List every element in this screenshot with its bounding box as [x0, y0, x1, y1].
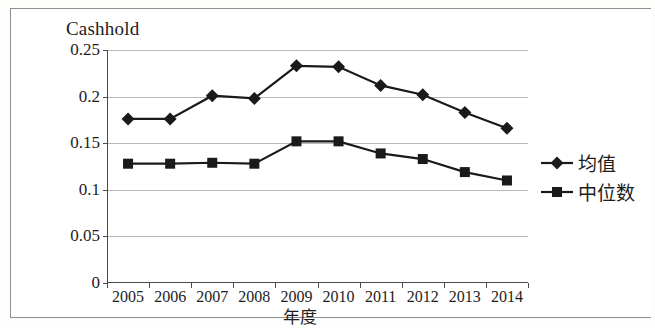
legend-marker-square-icon	[540, 185, 574, 199]
chart-legend: 均值中位数	[540, 148, 650, 206]
legend-label: 中位数	[578, 178, 635, 205]
y-axis-tick-label: 0.15	[38, 133, 100, 153]
y-axis-tick-labels: 00.050.10.150.20.25	[36, 50, 100, 283]
x-axis-title: 年度	[0, 303, 600, 328]
plot-area	[107, 50, 528, 283]
y-axis-tick-label: 0	[38, 273, 100, 293]
x-axis-tick	[528, 283, 529, 288]
chart-title: Cashhold	[66, 18, 139, 40]
plot-axes	[107, 50, 528, 283]
legend-label: 均值	[578, 149, 616, 176]
y-axis-tick-label: 0.2	[38, 87, 100, 107]
legend-marker-diamond-icon	[540, 156, 574, 170]
legend-item: 均值	[540, 148, 650, 177]
y-axis-tick-label: 0.1	[38, 180, 100, 200]
legend-item: 中位数	[540, 177, 650, 206]
y-axis-tick-label: 0.25	[38, 40, 100, 60]
y-axis-tick-label: 0.05	[38, 226, 100, 246]
